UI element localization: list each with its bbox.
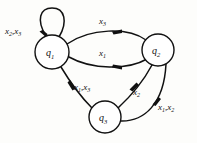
transition-label-q3-to-q2-outer-sym1-subscript: 2 xyxy=(171,107,174,113)
state-label-q1-subscript: 1 xyxy=(51,53,54,60)
transition-label-q3-to-q2-outer: x1,x2 xyxy=(157,102,174,113)
state-transition-diagram: q1 q2 q3 x2,x3 x3 x1 x1,x3 x2 x1,x2 xyxy=(0,0,197,143)
transition-label-q1-self-sym1-subscript: 3 xyxy=(17,31,21,37)
transition-q3-to-q2-outer xyxy=(120,64,166,121)
diagram-canvas: q1 q2 q3 x2,x3 x3 x1 x1,x3 x2 x1,x2 xyxy=(0,0,197,143)
transition-label-q3-to-q2-subscript: 2 xyxy=(137,92,140,98)
transition-label-q1-self: x2,x3 xyxy=(4,26,21,37)
transition-label-q2-to-q1-middle: x1 xyxy=(98,48,106,59)
transition-label-q1-to-q3-sym1-subscript: 3 xyxy=(86,87,90,93)
transition-label-q3-to-q2: x2 xyxy=(132,87,140,98)
transition-q1-to-q2-top-arrowhead xyxy=(112,30,122,35)
transition-q1-self xyxy=(40,8,65,38)
transition-q2-to-q1-middle-path xyxy=(69,57,147,67)
transition-q1-to-q2-top xyxy=(67,30,146,45)
transition-label-q2-to-q1-middle-subscript: 1 xyxy=(103,53,106,59)
transition-q2-to-q1-middle-arrowhead xyxy=(112,65,122,70)
transition-q3-to-q2-outer-path xyxy=(120,64,166,121)
transition-q2-to-q1-middle xyxy=(69,57,147,70)
transition-label-q1-to-q3: x1,x3 xyxy=(73,82,90,93)
transition-label-q1-to-q2-top: x3 xyxy=(98,16,106,27)
transition-label-q1-to-q2-top-subscript: 3 xyxy=(102,21,106,27)
transition-q1-to-q2-top-path xyxy=(67,31,146,44)
